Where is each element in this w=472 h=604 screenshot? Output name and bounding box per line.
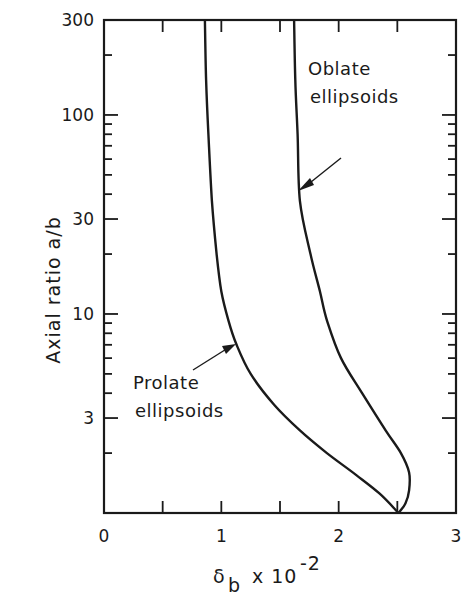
x-title-subscript: b	[228, 574, 241, 596]
y-tick-label: 100	[62, 105, 94, 125]
x-tick-label: 2	[333, 526, 344, 546]
x-title-multiplier: x 10	[252, 565, 297, 587]
y-tick-label: 3	[83, 408, 94, 428]
y-axis-title: Axial ratio a/b	[42, 216, 64, 363]
prolate-label-line1: Prolate	[133, 372, 199, 393]
x-tick-label: 0	[99, 526, 110, 546]
prolate-arrowhead-icon	[222, 344, 236, 354]
x-tick-label: 3	[451, 526, 462, 546]
x-tick-label: 1	[216, 526, 227, 546]
oblate-label-line1: Oblate	[308, 58, 371, 79]
y-tick-label: 300	[62, 10, 94, 30]
prolate-arrow-line	[193, 348, 228, 370]
plot-frame	[104, 20, 456, 513]
oblate-annotation: Oblate ellipsoids	[0, 58, 399, 191]
oblate-arrowhead-icon	[298, 178, 314, 191]
y-tick-labels: 31030100300	[62, 10, 94, 428]
chart: 31030100300 0123 Oblate ellipsoids Prola…	[0, 0, 472, 604]
prolate-annotation: Prolate ellipsoids	[133, 344, 236, 421]
y-tick-label: 30	[72, 209, 94, 229]
x-title-symbol: δ	[213, 565, 226, 587]
x-title-exponent: -2	[300, 552, 321, 574]
oblate-arrow-shaft	[0, 158, 340, 188]
x-axis-title: δ b x 10 -2	[213, 552, 321, 596]
prolate-label-line2: ellipsoids	[135, 400, 224, 421]
oblate-label-line2: ellipsoids	[310, 86, 399, 107]
y-tick-label: 10	[72, 304, 94, 324]
x-tick-labels: 0123	[99, 526, 462, 546]
